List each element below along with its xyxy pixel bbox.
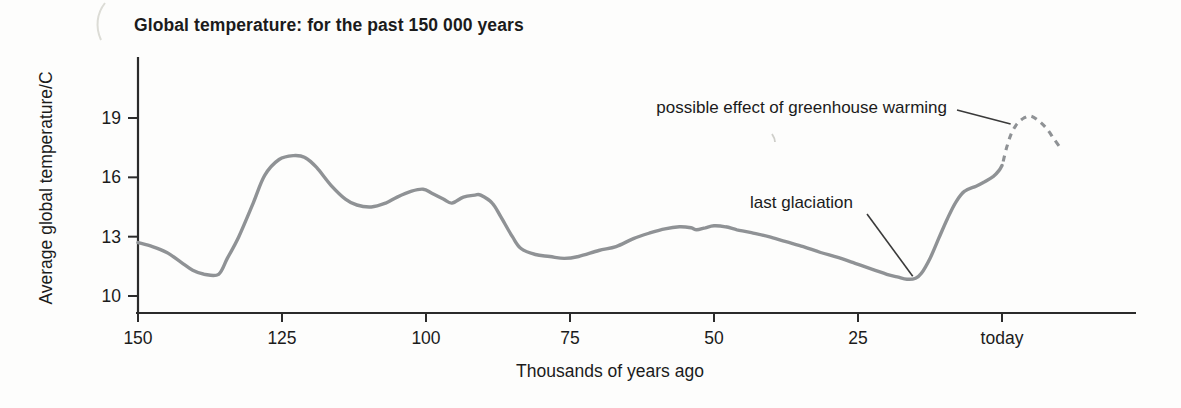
y-tick-label: 16 [61, 166, 121, 188]
x-tick-label: 150 [93, 328, 183, 349]
y-tick-label: 13 [61, 226, 121, 248]
greenhouse-projection-curve [1003, 116, 1059, 162]
scan-artifact-speck [772, 134, 775, 142]
x-tick-label: 75 [525, 328, 615, 349]
y-axis-label: Average global temperature/C [36, 71, 57, 304]
glaciation-annotation-leader-line [867, 214, 913, 276]
greenhouse-annotation-leader-line [957, 110, 1011, 124]
y-tick-label: 10 [61, 285, 121, 307]
x-axis-label: Thousands of years ago [516, 361, 704, 382]
x-tick-label: 100 [381, 328, 471, 349]
x-axis-tick-marks [138, 313, 1002, 322]
x-tick-label: today [957, 328, 1047, 349]
x-tick-label: 25 [813, 328, 903, 349]
y-axis-tick-marks [128, 118, 138, 296]
annotation-last-glaciation: last glaciation [750, 193, 853, 213]
x-tick-label: 125 [237, 328, 327, 349]
chart-title: Global temperature: for the past 150 000… [134, 15, 524, 36]
annotation-greenhouse-warming: possible effect of greenhouse warming [656, 98, 947, 118]
scan-artifact-squiggle [98, 3, 105, 40]
temperature-curve [138, 156, 1002, 280]
y-tick-label: 19 [61, 107, 121, 129]
x-tick-label: 50 [669, 328, 759, 349]
figure-global-temperature-chart: Global temperature: for the past 150 000… [0, 0, 1181, 408]
